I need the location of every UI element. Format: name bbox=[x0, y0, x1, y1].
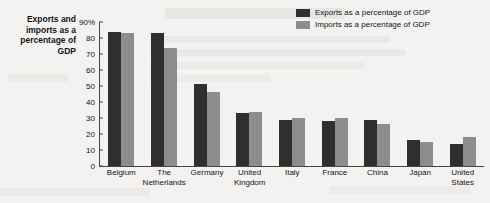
y-axis-caption: Exports and imports as a percentage of G… bbox=[2, 14, 76, 56]
bar-group bbox=[271, 22, 314, 166]
y-axis-tick-label: 80 bbox=[86, 34, 95, 43]
bar-imports bbox=[335, 118, 348, 166]
bar-exports bbox=[194, 84, 207, 166]
bar-imports bbox=[292, 118, 305, 166]
bar-groups bbox=[100, 22, 484, 166]
legend-item-exports: Exports as a percentage of GDP bbox=[296, 8, 430, 17]
plot-area: 90%80706050403020100 bbox=[99, 22, 484, 166]
y-axis-caption-line-4: GDP bbox=[2, 46, 76, 57]
x-axis-category-label: UnitedKingdom bbox=[228, 168, 271, 187]
x-axis-category-label: China bbox=[356, 168, 399, 187]
x-axis-category-label: Japan bbox=[399, 168, 442, 187]
bar-imports bbox=[249, 112, 262, 166]
bar-imports bbox=[463, 137, 476, 166]
x-axis-category-label: UnitedStates bbox=[441, 168, 484, 187]
x-axis-category-labels: BelgiumTheNetherlandsGermanyUnitedKingdo… bbox=[100, 168, 484, 187]
bar-exports bbox=[322, 121, 335, 166]
y-axis-tick-label: 20 bbox=[86, 130, 95, 139]
bar-group bbox=[441, 22, 484, 166]
bar-imports bbox=[164, 48, 177, 166]
y-axis-caption-line-3: percentage of bbox=[2, 35, 76, 46]
bar-exports bbox=[364, 120, 377, 166]
x-axis-category-label: France bbox=[314, 168, 357, 187]
bar-group bbox=[399, 22, 442, 166]
bar-exports bbox=[450, 144, 463, 166]
x-axis-category-label: Germany bbox=[186, 168, 229, 187]
y-axis-tick-label: 0 bbox=[91, 162, 95, 171]
x-axis-category-label: TheNetherlands bbox=[143, 168, 186, 187]
bar-exports bbox=[151, 33, 164, 166]
bar-exports bbox=[236, 113, 249, 166]
y-axis-tick-label: 90% bbox=[79, 18, 95, 27]
bar-group bbox=[313, 22, 356, 166]
bar-group bbox=[356, 22, 399, 166]
y-axis-tick-label: 30 bbox=[86, 114, 95, 123]
bar-group bbox=[100, 22, 143, 166]
bar-group bbox=[228, 22, 271, 166]
background-bleed-texture bbox=[330, 186, 470, 194]
bar-exports bbox=[108, 32, 121, 166]
background-bleed-texture bbox=[8, 74, 68, 82]
y-axis-tick-label: 60 bbox=[86, 66, 95, 75]
legend-swatch-exports bbox=[296, 9, 310, 17]
bar-chart-figure: Exports and imports as a percentage of G… bbox=[0, 0, 490, 203]
bar-group bbox=[143, 22, 186, 166]
y-axis-tick-label: 10 bbox=[86, 146, 95, 155]
bar-imports bbox=[377, 124, 390, 166]
legend-label-exports: Exports as a percentage of GDP bbox=[315, 8, 430, 17]
y-axis-tick-label: 40 bbox=[86, 98, 95, 107]
x-axis-line bbox=[99, 166, 484, 167]
bar-imports bbox=[207, 92, 220, 166]
bar-exports bbox=[407, 140, 420, 166]
bar-imports bbox=[420, 142, 433, 166]
bar-exports bbox=[279, 120, 292, 166]
bar-imports bbox=[121, 33, 134, 166]
bar-group bbox=[185, 22, 228, 166]
background-bleed-texture bbox=[0, 188, 150, 196]
x-axis-category-label: Italy bbox=[271, 168, 314, 187]
y-axis-tick-label: 50 bbox=[86, 82, 95, 91]
y-axis-caption-line-2: imports as a bbox=[2, 25, 76, 36]
x-axis-category-label: Belgium bbox=[100, 168, 143, 187]
y-axis-tick-label: 70 bbox=[86, 50, 95, 59]
y-axis-caption-line-1: Exports and bbox=[2, 14, 76, 25]
